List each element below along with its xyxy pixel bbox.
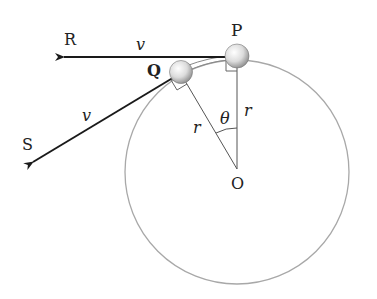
velocity-arrow-QS	[33, 76, 176, 162]
circular-motion-diagram: P Q R S O v v r r θ	[0, 0, 377, 299]
ball-P	[225, 44, 249, 68]
label-P: P	[231, 20, 242, 40]
label-velocity-bottom: v	[82, 106, 91, 125]
label-S: S	[22, 135, 33, 154]
label-O: O	[231, 174, 244, 193]
label-Q: Q	[147, 61, 161, 80]
label-radius-left: r	[193, 118, 202, 137]
ball-Q	[170, 61, 193, 84]
label-angle-theta: θ	[220, 109, 230, 128]
label-R: R	[64, 30, 77, 49]
label-velocity-top: v	[136, 35, 145, 54]
label-radius-right: r	[244, 101, 253, 120]
angle-arc-theta	[216, 128, 237, 133]
